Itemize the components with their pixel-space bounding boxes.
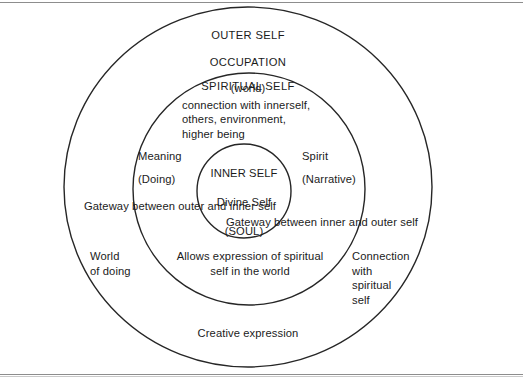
spiritual-self-description: connection with innerself, others, envir… xyxy=(182,98,402,141)
outer-self-line2: OCCUPATION xyxy=(148,56,348,69)
bottom-divider-rule-shadow xyxy=(0,376,523,377)
bottom-divider-rule xyxy=(0,374,523,375)
allows-expression-label: Allows expression of spiritual self in t… xyxy=(152,249,348,278)
connection-with-spiritual-self-label: Connection with spiritual self xyxy=(352,249,432,307)
outer-self-label: OUTER SELF OCCUPATION (world) xyxy=(148,16,348,108)
inner-self-line1: INNER SELF xyxy=(211,167,278,179)
creative-expression-label: Creative expression xyxy=(168,327,328,340)
narrative-label: (Narrative) xyxy=(302,173,392,186)
outer-self-line1: OUTER SELF xyxy=(148,29,348,42)
gateway-inner-to-outer-label: Gateway between inner and outer self xyxy=(226,216,516,229)
diagram-page: OUTER SELF OCCUPATION (world) SPIRITUAL … xyxy=(0,0,523,387)
spirit-label: Spirit xyxy=(302,150,382,163)
spiritual-self-title: SPIRITUAL SELF xyxy=(148,80,348,93)
gateway-outer-to-inner-label: Gateway between outer and inner self xyxy=(84,200,344,213)
